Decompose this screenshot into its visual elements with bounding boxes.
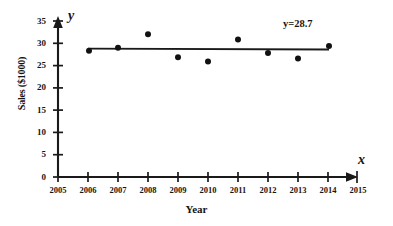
data-point xyxy=(86,48,92,54)
data-point xyxy=(326,43,332,49)
x-axis-symbol: x xyxy=(358,152,365,168)
data-point xyxy=(145,31,151,37)
x-tick-label: 2015 xyxy=(343,186,373,195)
y-axis-symbol: y xyxy=(68,8,74,24)
y-axis-arrowhead xyxy=(53,16,63,28)
x-tick-label: 2013 xyxy=(283,186,313,195)
x-axis-title: Year xyxy=(0,203,393,215)
y-tick-label: 10 xyxy=(20,128,46,137)
x-tick-label: 2014 xyxy=(313,186,343,195)
y-tick-label: 5 xyxy=(20,150,46,159)
x-tick-label: 2009 xyxy=(163,186,193,195)
x-tick-label: 2012 xyxy=(253,186,283,195)
x-tick-label: 2008 xyxy=(133,186,163,195)
y-tick-label: 35 xyxy=(20,17,46,26)
x-tick-label: 2007 xyxy=(103,186,133,195)
x-tick-label: 2006 xyxy=(73,186,103,195)
data-point xyxy=(265,50,271,56)
data-point xyxy=(205,59,211,65)
data-point xyxy=(235,37,241,43)
data-point xyxy=(295,55,301,61)
chart-container: 0 5 10 15 20 25 30 35 2005 2006 2007 200… xyxy=(0,0,393,226)
x-tick-label: 2005 xyxy=(43,186,73,195)
x-tick-label: 2011 xyxy=(223,186,253,195)
y-tick-label: 0 xyxy=(20,173,46,182)
trendline-equation-label: y=28.7 xyxy=(283,18,313,29)
data-point xyxy=(175,54,181,60)
data-point xyxy=(115,45,121,51)
trendline xyxy=(88,49,329,50)
y-axis-title: Sales ($1000) xyxy=(16,39,27,129)
x-tick-label: 2010 xyxy=(193,186,223,195)
